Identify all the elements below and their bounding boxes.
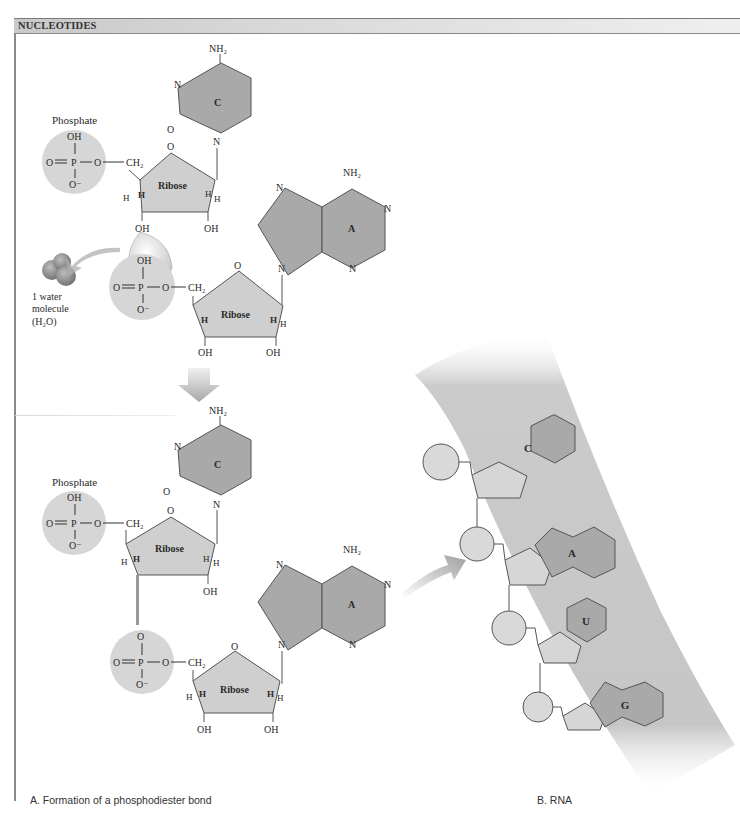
svg-text:H: H [270, 315, 277, 325]
svg-text:OH: OH [203, 586, 217, 597]
svg-text:OH: OH [266, 347, 280, 358]
svg-text:O⁻: O⁻ [136, 679, 149, 690]
svg-text:NH₂: NH₂ [343, 167, 361, 178]
svg-text:NH₂: NH₂ [209, 405, 227, 416]
nucleotide-diagram: Phosphate OH O P O O⁻ CH₂ O Ribose H H H… [0, 0, 740, 815]
svg-text:N: N [384, 203, 391, 214]
svg-text:OH: OH [197, 724, 211, 735]
svg-text:OH: OH [67, 131, 81, 142]
svg-text:OH: OH [204, 223, 218, 234]
phosphodiester-bond [136, 575, 139, 625]
svg-text:CH₂: CH₂ [188, 657, 205, 668]
svg-text:H: H [205, 189, 212, 199]
adenine-base [258, 565, 322, 650]
svg-text:P: P [138, 657, 144, 668]
svg-text:O: O [167, 505, 174, 516]
svg-text:O⁻: O⁻ [69, 179, 82, 190]
curved-arrow-icon [66, 248, 120, 276]
base-label-a: A [568, 547, 576, 559]
svg-text:H: H [280, 319, 287, 329]
svg-text:Ribose: Ribose [220, 684, 249, 695]
svg-text:C: C [214, 97, 221, 108]
svg-text:O⁻: O⁻ [137, 304, 150, 315]
svg-text:NH₂: NH₂ [343, 544, 361, 555]
svg-text:CH₂: CH₂ [126, 518, 143, 529]
svg-text:Phosphate: Phosphate [52, 476, 97, 488]
svg-text:N: N [174, 79, 181, 90]
svg-text:H: H [267, 689, 274, 699]
ribose-sugar [193, 271, 283, 337]
base-label-c: C [524, 442, 532, 454]
svg-text:O: O [162, 282, 169, 293]
svg-text:A: A [348, 599, 356, 610]
svg-text:Ribose: Ribose [155, 543, 184, 554]
svg-text:H: H [277, 693, 284, 703]
svg-text:N: N [276, 182, 283, 193]
svg-text:OH: OH [264, 724, 278, 735]
svg-text:1 water: 1 water [32, 291, 62, 302]
svg-text:H: H [214, 194, 221, 204]
svg-text:C: C [214, 459, 221, 470]
panel-b-caption: B. RNA [537, 794, 572, 806]
svg-text:A: A [348, 223, 356, 234]
svg-text:NH₂: NH₂ [209, 43, 227, 54]
svg-text:N: N [278, 639, 285, 650]
svg-text:N: N [213, 136, 220, 147]
svg-text:H: H [186, 692, 193, 702]
svg-text:O: O [46, 157, 53, 168]
phosphate-label: Phosphate [52, 114, 97, 126]
svg-text:N: N [349, 263, 356, 274]
panel-a-caption: A. Formation of a phosphodiester bond [30, 794, 212, 806]
svg-text:O: O [137, 631, 144, 642]
svg-text:N: N [276, 559, 283, 570]
phosphate-circle [523, 692, 553, 722]
svg-text:O: O [163, 486, 170, 497]
svg-text:P: P [71, 518, 77, 529]
svg-text:N: N [384, 579, 391, 590]
svg-text:Ribose: Ribose [158, 180, 187, 191]
svg-text:H: H [213, 558, 220, 568]
svg-text:N: N [349, 639, 356, 650]
svg-text:CH₂: CH₂ [188, 282, 205, 293]
svg-text:O: O [234, 260, 241, 271]
svg-text:O: O [94, 518, 101, 529]
svg-text:O: O [167, 124, 174, 135]
svg-text:O: O [46, 518, 53, 529]
svg-text:H: H [138, 190, 145, 200]
ribose-sugar [193, 651, 280, 713]
svg-text:H: H [133, 554, 140, 564]
svg-text:O: O [231, 641, 238, 652]
svg-text:O: O [167, 141, 174, 152]
svg-text:N: N [278, 263, 285, 274]
svg-text:O: O [113, 282, 120, 293]
svg-text:H: H [201, 315, 208, 325]
svg-text:H: H [199, 689, 206, 699]
svg-text:H: H [121, 557, 128, 567]
svg-text:OH: OH [137, 255, 151, 266]
svg-text:N: N [174, 441, 181, 452]
svg-text:H: H [123, 193, 130, 203]
svg-text:N: N [213, 499, 220, 510]
svg-text:(H₂O): (H₂O) [32, 316, 57, 328]
svg-text:O: O [94, 157, 101, 168]
svg-text:H: H [203, 554, 210, 564]
svg-text:OH: OH [198, 347, 212, 358]
phosphate-circle [492, 611, 526, 645]
arrow-down-icon [178, 368, 220, 402]
base-label-g: G [621, 699, 630, 711]
svg-text:O: O [162, 657, 169, 668]
svg-text:P: P [138, 282, 144, 293]
svg-text:OH: OH [135, 223, 149, 234]
arrow-right-icon [400, 555, 466, 598]
svg-text:O⁻: O⁻ [69, 540, 82, 551]
adenine-base [258, 188, 322, 275]
svg-text:CH₂: CH₂ [126, 157, 143, 168]
phosphate-circle [460, 527, 494, 561]
svg-text:OH: OH [67, 492, 81, 503]
svg-text:O: O [113, 657, 120, 668]
svg-text:molecule: molecule [32, 303, 69, 314]
base-label-u: U [582, 615, 590, 627]
phosphate-circle [423, 444, 459, 480]
svg-text:Ribose: Ribose [221, 309, 250, 320]
svg-text:P: P [71, 157, 77, 168]
